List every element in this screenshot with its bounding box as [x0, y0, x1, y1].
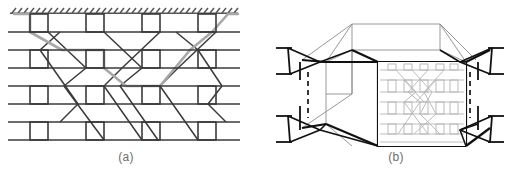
figure-canvas	[0, 0, 508, 174]
panel-b-caption: (b)	[366, 150, 426, 164]
front-face-panel	[378, 62, 466, 146]
panel-a-caption: (a)	[96, 150, 156, 164]
